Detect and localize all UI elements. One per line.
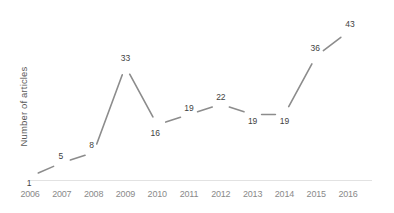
data-point-label: 1 — [27, 178, 32, 188]
line-segment — [289, 64, 312, 107]
data-point-label: 33 — [121, 53, 130, 63]
x-axis-tick-label: 2006 — [20, 189, 39, 199]
line-segment — [70, 155, 85, 160]
data-point-label: 22 — [216, 92, 225, 102]
line-segment — [38, 166, 53, 173]
x-axis-tick-label: 2012 — [211, 189, 230, 199]
line-segment — [323, 37, 340, 50]
data-point-label: 43 — [345, 19, 354, 29]
data-point-label: 16 — [151, 128, 160, 138]
x-axis-tick-label: 2013 — [243, 189, 262, 199]
line-segment — [166, 117, 181, 122]
x-axis-tick-label: 2009 — [116, 189, 135, 199]
x-axis-tick-label: 2010 — [148, 189, 167, 199]
chart-svg — [0, 0, 394, 213]
line-segment — [229, 107, 244, 112]
line-chart: Number of articles 158331619221919364320… — [0, 0, 394, 213]
x-axis-tick-label: 2014 — [275, 189, 294, 199]
line-segment — [198, 107, 213, 112]
data-point-label: 8 — [89, 140, 94, 150]
plot-area — [0, 0, 394, 213]
data-point-label: 19 — [184, 103, 193, 113]
data-point-label: 36 — [311, 43, 320, 53]
x-axis-tick-label: 2008 — [84, 189, 103, 199]
data-point-label: 19 — [248, 116, 257, 126]
x-axis-tick-label: 2016 — [338, 189, 357, 199]
data-point-label: 19 — [280, 116, 289, 126]
line-segment — [130, 74, 153, 117]
data-point-label: 5 — [58, 151, 63, 161]
x-axis-tick-label: 2011 — [180, 189, 199, 199]
x-axis-tick-label: 2007 — [52, 189, 71, 199]
x-axis-tick-label: 2015 — [307, 189, 326, 199]
line-segment — [97, 75, 123, 144]
